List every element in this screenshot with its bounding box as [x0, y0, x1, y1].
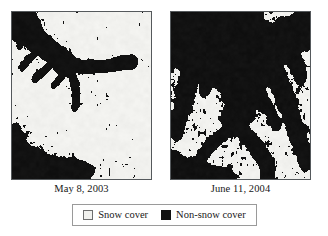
snow-cover-map-2004: [170, 11, 311, 180]
legend-label-non-snow: Non-snow cover: [176, 209, 246, 221]
panel-caption-right: June 11, 2004: [170, 182, 311, 196]
snow-cover-raster-right: [171, 12, 310, 179]
snow-cover-map-2003: [11, 11, 152, 180]
legend-box: Snow cover Non-snow cover: [72, 204, 257, 226]
snow-cover-raster-left: [12, 12, 151, 179]
snow-cover-figure: May 8, 2003 June 11, 2004 Snow cover Non…: [0, 0, 328, 236]
panel-caption-left: May 8, 2003: [11, 182, 152, 196]
snow-swatch-icon: [83, 210, 93, 220]
legend-entry-snow: Snow cover: [83, 209, 148, 221]
non-snow-swatch-icon: [161, 210, 171, 220]
legend-entry-non-snow: Non-snow cover: [161, 209, 246, 221]
legend-label-snow: Snow cover: [98, 209, 148, 221]
